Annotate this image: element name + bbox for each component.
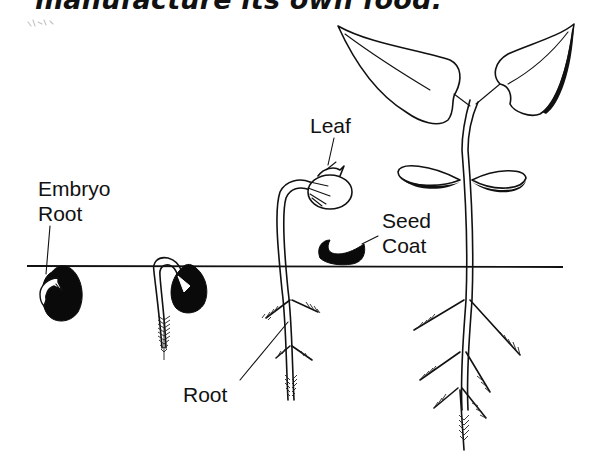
label-embryo-root-line2: Root bbox=[38, 201, 110, 226]
stage-3-seedling bbox=[240, 138, 378, 400]
label-root: Root bbox=[183, 382, 227, 407]
label-embryo-root: Embryo Root bbox=[38, 176, 110, 226]
label-embryo-root-line1: Embryo bbox=[38, 176, 110, 201]
stage-4-plant bbox=[338, 24, 574, 450]
stage-1-seed bbox=[40, 226, 82, 321]
soil-line bbox=[27, 266, 563, 267]
label-seed-coat: Seed Coat bbox=[382, 208, 431, 258]
stage-2-seedling bbox=[154, 258, 207, 360]
label-seed-coat-line1: Seed bbox=[382, 208, 431, 233]
germination-diagram bbox=[0, 0, 589, 475]
label-leaf: Leaf bbox=[310, 113, 351, 138]
label-seed-coat-line2: Coat bbox=[382, 233, 431, 258]
smudge-mark bbox=[28, 20, 53, 26]
